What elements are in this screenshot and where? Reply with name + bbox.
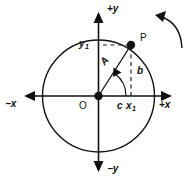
point-p-dot bbox=[127, 41, 135, 49]
axis-label-x-negative: −x bbox=[5, 99, 16, 109]
y-negative-arrowhead bbox=[94, 161, 104, 172]
y-coordinate-subscript: 1 bbox=[85, 43, 89, 50]
phasor-diagram-figure: −x +x +y −y O P A c b x1 y1 bbox=[0, 0, 193, 180]
point-p-label: P bbox=[140, 33, 147, 43]
origin-label: O bbox=[79, 101, 87, 111]
x-coordinate-label: x1 bbox=[126, 101, 136, 112]
figure-canvas bbox=[0, 0, 193, 180]
y-coordinate-label: y1 bbox=[79, 39, 89, 50]
axis-label-y-positive: +y bbox=[107, 4, 118, 14]
angle-arc-c bbox=[115, 74, 127, 97]
rotation-arrowhead-icon bbox=[155, 11, 166, 22]
axis-label-x-positive: +x bbox=[159, 100, 170, 110]
origin-point-dot bbox=[94, 92, 102, 100]
rotation-arc bbox=[162, 17, 182, 48]
y-positive-arrowhead bbox=[94, 12, 104, 23]
angle-label-c: c bbox=[117, 101, 123, 111]
axis-label-y-negative: −y bbox=[107, 164, 118, 174]
y-coordinate-base: y bbox=[79, 38, 85, 49]
x-negative-arrowhead bbox=[24, 91, 35, 101]
opposite-label-b: b bbox=[137, 66, 143, 76]
x-coordinate-base: x bbox=[126, 100, 132, 111]
x-coordinate-subscript: 1 bbox=[132, 105, 136, 112]
